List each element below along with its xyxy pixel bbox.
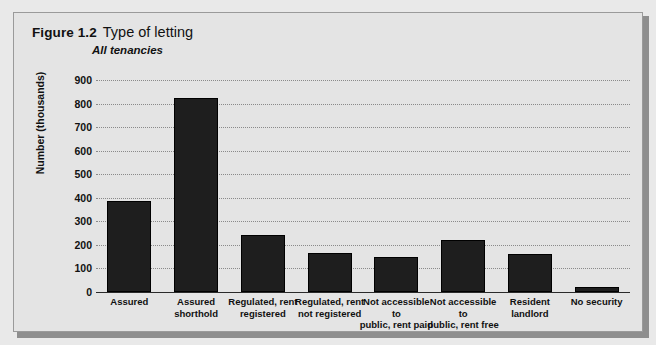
bar (508, 254, 552, 292)
plot-area (96, 80, 630, 292)
y-axis-tick-label: 700 (48, 121, 92, 133)
y-axis-tick-label: 900 (48, 74, 92, 86)
bar (308, 253, 352, 292)
figure-page: Figure 1.2Type of letting All tenancies … (0, 0, 656, 345)
x-axis-tick-label: No security (558, 296, 635, 308)
bar (374, 257, 418, 292)
y-axis-tick-label: 200 (48, 239, 92, 251)
x-axis-tick-label-line: Regulated, rent (225, 296, 302, 308)
x-axis-tick-label-line: Not accessible to (425, 296, 502, 319)
bar (441, 240, 485, 292)
x-axis-tick-label-line: not registered (291, 308, 368, 320)
x-axis-tick-label-line: public, rent free (425, 319, 502, 331)
x-axis-tick-label: Residentlandlord (492, 296, 569, 319)
y-axis-tick-label: 400 (48, 192, 92, 204)
x-axis-tick-label: Regulated, rentnot registered (291, 296, 368, 319)
y-axis-tick-label: 0 (48, 286, 92, 298)
x-axis-tick-label-line: Not accessible to (358, 296, 435, 319)
y-axis-label: Number (thousands) (34, 53, 46, 193)
bar (174, 98, 218, 292)
y-axis-tick-label: 100 (48, 262, 92, 274)
x-axis-tick-label-line: Assured (91, 296, 168, 308)
x-axis-tick-label-line: shorthold (158, 308, 235, 320)
y-axis-tick-label: 300 (48, 215, 92, 227)
bar (107, 201, 151, 292)
y-axis-tick-label: 600 (48, 145, 92, 157)
y-axis-tick-label: 800 (48, 98, 92, 110)
x-axis-tick-label-line: No security (558, 296, 635, 308)
x-axis-tick-label: Not accessible topublic, rent paid (358, 296, 435, 331)
bar (241, 235, 285, 292)
figure-panel: Figure 1.2Type of letting All tenancies … (13, 12, 643, 332)
x-axis-tick-label: Not accessible topublic, rent free (425, 296, 502, 331)
y-axis-tick-label: 500 (48, 168, 92, 180)
x-axis-tick-label: Regulated, rentregistered (225, 296, 302, 319)
x-axis-labels: AssuredAssuredshortholdRegulated, rentre… (96, 296, 630, 326)
x-axis-tick-label: Assured (91, 296, 168, 308)
x-axis-tick-label-line: Assured (158, 296, 235, 308)
x-axis-tick-label-line: public, rent paid (358, 319, 435, 331)
x-axis-line (96, 292, 630, 293)
x-axis-tick-label: Assuredshorthold (158, 296, 235, 319)
y-axis-ticks: 0100200300400500600700800900 (44, 80, 92, 292)
bars (96, 80, 630, 292)
x-axis-tick-label-line: registered (225, 308, 302, 320)
x-axis-tick-label-line: landlord (492, 308, 569, 320)
bar-chart: 0100200300400500600700800900 Number (tho… (14, 13, 644, 333)
x-axis-tick-label-line: Resident (492, 296, 569, 308)
x-axis-tick-label-line: Regulated, rent (291, 296, 368, 308)
